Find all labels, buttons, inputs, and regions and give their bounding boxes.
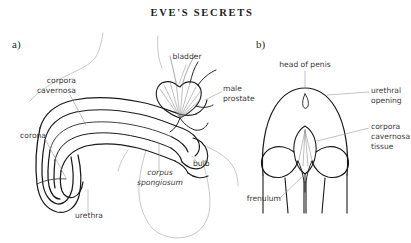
label-corpora-tissue-line1: corpora: [371, 122, 411, 132]
corpora-septum-line: [50, 122, 172, 150]
label-corpus-spongiosum-line1: corpus: [129, 168, 191, 178]
label-corpus-spongiosum-line2: spongiosum: [129, 178, 191, 188]
leader-lines: [44, 65, 369, 212]
label-frenulum: frenulum: [229, 194, 281, 204]
label-corona: corona: [0, 131, 46, 141]
corpus-spongiosum-upper: [55, 133, 171, 160]
label-head-of-penis: head of penis: [266, 60, 344, 70]
glans-lobes-b: [261, 147, 348, 178]
label-urethral-opening-line2: opening: [371, 96, 411, 106]
label-urethral-opening: urethral opening: [371, 86, 411, 106]
label-corpora-tissue-line2: cavernosa: [371, 132, 411, 142]
corpora-tissue-hatch: [299, 130, 312, 166]
panel-letter-a: a): [12, 38, 21, 50]
label-corpora-tissue-line3: tissue: [371, 142, 411, 152]
label-bulb: bulb: [193, 159, 223, 169]
bladder-hatching: [160, 82, 201, 118]
prostate-shape: [170, 62, 216, 132]
label-male-prostate-line2: prostate: [223, 94, 267, 104]
label-corpora-cavernosa-line1: corpora: [0, 76, 76, 86]
label-bladder: bladder: [163, 52, 211, 62]
label-corpora-cavernosa-tissue: corpora cavernosa tissue: [371, 122, 411, 152]
label-corpora-cavernosa: corpora cavernosa: [0, 76, 76, 96]
label-corpus-spongiosum: corpus spongiosum: [129, 168, 191, 188]
label-urethra: urethra: [66, 211, 112, 221]
body-contour-a: [30, 33, 238, 238]
corona-groove: [37, 179, 66, 184]
label-male-prostate-line1: male: [223, 84, 267, 94]
frenulum-lines: [298, 161, 312, 192]
panel-letter-b: b): [256, 38, 265, 50]
label-corpora-cavernosa-line2: cavernosa: [0, 86, 76, 96]
label-urethral-opening-line1: urethral: [371, 86, 411, 96]
corpora-cavernosa-inner-1: [45, 110, 176, 140]
urethral-opening-shape: [303, 94, 309, 108]
label-male-prostate: male prostate: [223, 84, 267, 104]
